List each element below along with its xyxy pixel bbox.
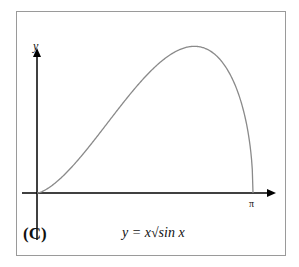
panel-label: (C) [23, 224, 47, 244]
x-tick-pi: π [249, 198, 254, 209]
x-axis-arrow-icon [267, 189, 276, 197]
y-axis-label: y [33, 39, 38, 54]
function-curve [37, 46, 253, 193]
formula-caption: y = x√sin x [122, 225, 185, 241]
